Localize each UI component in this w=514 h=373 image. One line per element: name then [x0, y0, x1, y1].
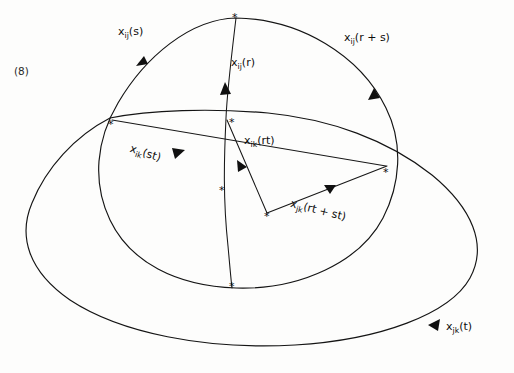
diagram-svg	[0, 0, 514, 373]
label-x-ik-rt-arg: (rt)	[257, 134, 274, 147]
figure-canvas: * * * * * * * (8) xij(s) xij(r) xij(r + …	[0, 0, 514, 373]
equation-number: (8)	[14, 66, 29, 77]
arrowhead-x-jk-t	[428, 319, 440, 331]
label-x-ij-rs-base: x	[344, 31, 351, 44]
vertex-star-lower-center: *	[264, 211, 270, 222]
label-x-ij-rs-sub: ij	[351, 37, 355, 46]
label-x-jk-t-arg: (t)	[459, 320, 472, 333]
label-x-ij-r-arg: (r)	[242, 56, 255, 69]
label-x-jk-t: xjk(t)	[446, 321, 472, 332]
label-x-ij-r-plus-s: xij(r + s)	[344, 32, 390, 43]
arrowhead-x-ij-r	[220, 82, 231, 95]
label-x-ij-s-base: x	[118, 25, 125, 38]
label-x-ij-r-base: x	[231, 56, 238, 69]
vertex-star-mid-left-cross: *	[219, 185, 225, 196]
vertex-star-right-intersection: *	[383, 167, 389, 178]
label-x-ij-s: xij(s)	[118, 26, 143, 37]
label-x-ij-s-arg: (s)	[129, 25, 143, 38]
arrowhead-x-ik-st	[172, 148, 185, 159]
vertex-star-top-pole: *	[232, 12, 238, 23]
label-x-ij-rs-arg: (r + s)	[355, 31, 390, 44]
label-x-jk-t-sub: jk	[453, 326, 460, 335]
label-x-ik-rt-base: x	[244, 134, 251, 147]
label-x-ij-s-sub: ij	[125, 31, 129, 40]
label-x-ik-rt-sub: ik	[251, 140, 258, 149]
label-x-ij-r: xij(r)	[231, 57, 255, 68]
label-x-ik-rt: xik(rt)	[244, 135, 275, 146]
label-x-ij-r-sub: ij	[238, 62, 242, 71]
vertex-star-upper-center: *	[229, 117, 235, 128]
vertex-star-bottom-pole: *	[229, 281, 235, 292]
label-x-jk-t-base: x	[446, 320, 453, 333]
vertex-star-left-intersection: *	[108, 119, 114, 130]
